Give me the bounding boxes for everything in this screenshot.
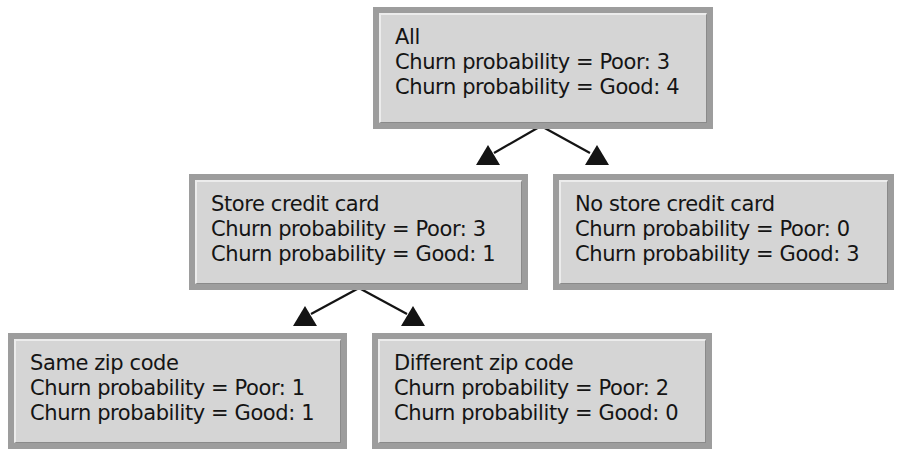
churn-poor-count: Churn probability = Poor: 3 xyxy=(211,217,521,242)
node-title: All xyxy=(395,25,706,50)
node-store-credit-card: Store credit card Churn probability = Po… xyxy=(189,174,528,290)
churn-good-count: Churn probability = Good: 0 xyxy=(394,401,705,426)
node-all-content: All Churn probability = Poor: 3 Churn pr… xyxy=(379,13,707,123)
arrowhead-icon xyxy=(585,145,609,165)
edge-all-to-store-credit-card xyxy=(476,126,541,165)
arrowhead-icon xyxy=(293,306,317,326)
node-no-store-credit-card: No store credit card Churn probability =… xyxy=(553,174,894,290)
churn-poor-count: Churn probability = Poor: 2 xyxy=(394,376,705,401)
churn-poor-count: Churn probability = Poor: 3 xyxy=(395,50,706,75)
churn-poor-count: Churn probability = Poor: 0 xyxy=(575,217,887,242)
arrowhead-icon xyxy=(476,145,500,165)
churn-good-count: Churn probability = Good: 1 xyxy=(30,401,340,426)
churn-poor-count: Churn probability = Poor: 1 xyxy=(30,376,340,401)
node-same-zip-code: Same zip code Churn probability = Poor: … xyxy=(8,333,347,449)
node-all: All Churn probability = Poor: 3 Churn pr… xyxy=(373,7,713,129)
edge-all-to-no-store-credit-card xyxy=(541,126,609,165)
node-title: No store credit card xyxy=(575,192,887,217)
churn-good-count: Churn probability = Good: 1 xyxy=(211,242,521,267)
node-same-zip-code-content: Same zip code Churn probability = Poor: … xyxy=(14,339,341,443)
node-different-zip-code-content: Different zip code Churn probability = P… xyxy=(378,339,706,443)
edge-store-credit-card-to-same-zip-code xyxy=(293,288,359,326)
churn-good-count: Churn probability = Good: 4 xyxy=(395,75,706,100)
node-different-zip-code: Different zip code Churn probability = P… xyxy=(372,333,712,449)
node-store-credit-card-content: Store credit card Churn probability = Po… xyxy=(195,180,522,284)
churn-good-count: Churn probability = Good: 3 xyxy=(575,242,887,267)
arrowhead-icon xyxy=(401,306,425,326)
node-title: Different zip code xyxy=(394,351,705,376)
node-title: Store credit card xyxy=(211,192,521,217)
node-no-store-credit-card-content: No store credit card Churn probability =… xyxy=(559,180,888,284)
node-title: Same zip code xyxy=(30,351,340,376)
edge-store-credit-card-to-different-zip-code xyxy=(359,288,425,326)
